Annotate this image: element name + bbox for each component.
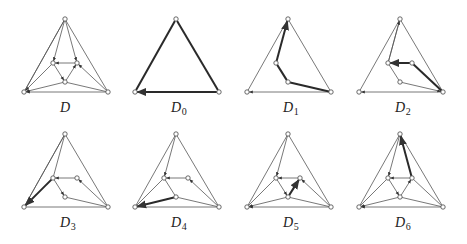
vertex-ib — [398, 80, 402, 84]
vertex-il — [386, 61, 390, 65]
edge-il-t — [389, 21, 400, 61]
vertex-ib — [63, 195, 67, 199]
edge-t-bl — [360, 21, 399, 90]
edge-br-ir — [79, 180, 107, 206]
edge-ib-il — [277, 65, 287, 80]
graph-panel-d3: D3 — [22, 132, 110, 232]
vertex-t — [174, 17, 178, 21]
edge-t-il — [277, 136, 288, 176]
edge-br-ir — [414, 65, 442, 91]
edge-il-ib — [389, 65, 399, 80]
edge-ib-ir — [401, 180, 411, 195]
panel-label: D6 — [394, 215, 411, 232]
graph-panel-d: D — [22, 17, 110, 115]
edge-br-ir — [414, 180, 442, 206]
graph-panel-d0: D0 — [133, 17, 221, 117]
edge-t-bl — [25, 136, 64, 205]
edge-t-br — [177, 21, 218, 90]
vertex-t — [286, 132, 290, 136]
edge-t-bl — [136, 21, 175, 90]
vertex-il — [274, 61, 278, 65]
edge-il-ib — [54, 180, 64, 195]
vertex-ir — [410, 61, 414, 65]
edge-t-il — [54, 136, 65, 176]
vertex-ib — [286, 80, 290, 84]
vertex-bl — [245, 90, 249, 94]
panel-label: D5 — [282, 215, 299, 232]
vertex-ib — [286, 195, 290, 199]
vertex-ir — [75, 61, 79, 65]
edge-t-br — [289, 136, 330, 205]
edge-t-bl — [360, 136, 399, 205]
edge-il-ib — [165, 180, 175, 195]
vertex-il — [51, 176, 55, 180]
graph-panel-d2: D2 — [357, 17, 445, 117]
edge-t-br — [66, 21, 107, 90]
vertex-br — [106, 90, 110, 94]
panel-label: D0 — [170, 100, 187, 117]
vertex-t — [286, 17, 290, 21]
vertex-bl — [133, 205, 137, 209]
edge-t-il — [165, 136, 176, 176]
vertex-bl — [133, 90, 137, 94]
vertex-il — [51, 61, 55, 65]
panel-label: D — [59, 100, 70, 115]
graph-panel-d4: D4 — [133, 132, 221, 232]
panel-label: D3 — [59, 215, 76, 232]
edge-br-ib — [67, 198, 106, 207]
edge-t-il — [389, 136, 400, 176]
edge-ir-t — [401, 136, 412, 176]
vertex-il — [386, 176, 390, 180]
edge-br-ib — [290, 198, 329, 207]
edge-ib-ir — [289, 180, 299, 195]
vertex-bl — [22, 90, 26, 94]
edge-br-ib — [290, 83, 329, 92]
vertex-br — [329, 90, 333, 94]
vertex-ir — [186, 176, 190, 180]
vertex-bl — [22, 205, 26, 209]
edge-t-br — [177, 136, 218, 205]
vertex-bl — [357, 205, 361, 209]
graph-panels: DD0D1D2D3D4D5D6 — [22, 17, 445, 232]
diagram-figure: DD0D1D2D3D4D5D6 — [0, 0, 467, 244]
edge-t-il — [54, 21, 65, 61]
vertex-bl — [245, 205, 249, 209]
vertex-t — [398, 17, 402, 21]
edge-il-bl — [26, 180, 52, 206]
vertex-br — [441, 205, 445, 209]
edge-t-ir — [66, 21, 77, 61]
vertex-t — [63, 17, 67, 21]
vertex-ib — [174, 195, 178, 199]
vertex-ir — [75, 176, 79, 180]
edge-br-ir — [190, 180, 218, 206]
edge-br-ir — [79, 65, 107, 91]
graph-panel-d6: D6 — [357, 132, 445, 232]
vertex-br — [106, 205, 110, 209]
vertex-br — [329, 205, 333, 209]
edge-br-ir — [302, 180, 330, 206]
vertex-br — [217, 90, 221, 94]
panel-label: D1 — [282, 100, 299, 117]
edge-il-t — [277, 21, 288, 61]
vertex-il — [274, 176, 278, 180]
edge-br-ib — [67, 83, 106, 92]
edge-il-ib — [389, 180, 399, 195]
edge-br-ib — [402, 198, 441, 207]
vertex-t — [174, 132, 178, 136]
vertex-bl — [357, 90, 361, 94]
vertex-t — [63, 132, 67, 136]
edge-t-bl — [25, 21, 64, 90]
panel-label: D4 — [170, 215, 187, 232]
vertex-ib — [398, 195, 402, 199]
vertex-ib — [63, 80, 67, 84]
edge-il-ib — [277, 180, 287, 195]
edge-br-ib — [178, 198, 217, 207]
vertex-br — [441, 90, 445, 94]
vertex-br — [217, 205, 221, 209]
panel-label: D2 — [394, 100, 411, 117]
edge-t-bl — [136, 136, 175, 205]
edge-t-br — [289, 21, 330, 90]
vertex-ir — [298, 176, 302, 180]
edge-t-br — [401, 136, 442, 205]
vertex-ir — [410, 176, 414, 180]
